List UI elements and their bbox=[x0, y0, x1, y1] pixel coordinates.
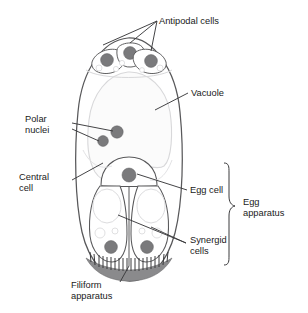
antipodal-vacuole-left bbox=[96, 65, 102, 71]
label-egg-cell: Egg cell bbox=[190, 185, 223, 195]
label-vacuole: Vacuole bbox=[191, 88, 224, 98]
synergid-vacuole-right bbox=[137, 189, 165, 223]
label-filiform-apparatus-line1: Filiform bbox=[71, 280, 102, 290]
synergid-small-vacuole-left-2 bbox=[112, 228, 118, 234]
label-egg-apparatus-line1: Egg bbox=[243, 197, 260, 207]
antipodal-vacuole-center bbox=[119, 60, 124, 65]
antipodal-vacuole-right bbox=[157, 65, 163, 71]
synergid-small-vacuole-left bbox=[95, 228, 105, 238]
label-polar-nuclei-line2: nuclei bbox=[25, 125, 49, 135]
label-synergid-cells-line1: Synergid bbox=[190, 235, 227, 245]
polar-nucleus-upper bbox=[111, 126, 123, 138]
synergid-cells-group bbox=[89, 186, 168, 266]
egg-apparatus-brace bbox=[224, 163, 235, 265]
antipodal-nucleus-right bbox=[145, 55, 158, 68]
egg-cell-nucleus bbox=[122, 168, 136, 182]
antipodal-vacuole-left-2 bbox=[113, 66, 118, 71]
synergid-small-vacuole-right-2 bbox=[139, 228, 145, 234]
label-synergid-cells-line2: cells bbox=[190, 246, 209, 256]
label-egg-apparatus-line2: apparatus bbox=[243, 208, 285, 218]
synergid-vacuole-left bbox=[93, 189, 121, 223]
label-antipodal-cells: Antipodal cells bbox=[159, 16, 219, 26]
label-central-cell-line1: Central bbox=[19, 172, 49, 182]
label-filiform-apparatus-line2: apparatus bbox=[71, 291, 113, 301]
synergid-nucleus-right bbox=[141, 241, 154, 254]
antipodal-nucleus-left bbox=[101, 54, 114, 67]
polar-nucleus-lower bbox=[98, 136, 109, 147]
diagram-canvas: Antipodal cells Vacuole Polar nuclei Cen… bbox=[0, 0, 308, 313]
label-central-cell-line2: cell bbox=[19, 183, 33, 193]
label-polar-nuclei-line1: Polar bbox=[25, 114, 47, 124]
brace-path bbox=[224, 163, 235, 265]
antipodal-vacuole-right-2 bbox=[140, 68, 145, 73]
embryo-sac-diagram: Antipodal cells Vacuole Polar nuclei Cen… bbox=[0, 0, 308, 313]
synergid-nucleus-left bbox=[105, 241, 118, 254]
